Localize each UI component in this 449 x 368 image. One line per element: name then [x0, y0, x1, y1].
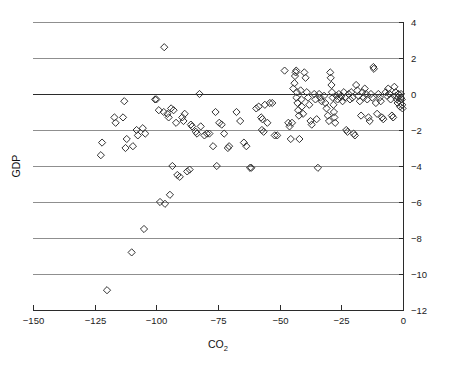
- data-point: [161, 44, 168, 51]
- data-point: [166, 191, 173, 198]
- data-point: [330, 101, 337, 108]
- x-tick-label: −25: [333, 315, 349, 326]
- x-tick-label: −150: [23, 315, 44, 326]
- data-point: [165, 114, 172, 121]
- data-point: [121, 98, 128, 105]
- x-tick-label: −125: [85, 315, 106, 326]
- data-point: [306, 101, 313, 108]
- plot-svg: −150−125−100−75−50−250420−2−4−6−8−10−12 …: [0, 0, 449, 368]
- data-point: [123, 135, 130, 142]
- y-tick-label: −4: [411, 161, 422, 172]
- data-point: [357, 112, 364, 119]
- x-axis-title: CO2: [208, 338, 228, 353]
- y-axis-title: GDP: [10, 155, 22, 178]
- x-tick-label: 0: [401, 315, 406, 326]
- data-point: [209, 143, 216, 150]
- data-point: [314, 164, 321, 171]
- y-tick-label: −8: [411, 233, 422, 244]
- scatter-chart: −150−125−100−75−50−250420−2−4−6−8−10−12 …: [0, 0, 449, 368]
- data-point: [269, 99, 276, 106]
- y-tick-label: 4: [411, 17, 416, 28]
- data-point: [197, 123, 204, 130]
- data-point: [274, 132, 281, 139]
- data-point: [103, 287, 110, 294]
- y-tick-label: −6: [411, 197, 422, 208]
- data-point: [328, 81, 335, 88]
- y-tick-label: −10: [411, 269, 427, 280]
- data-point: [233, 108, 240, 115]
- data-point: [129, 143, 136, 150]
- data-point: [119, 114, 126, 121]
- data-point: [308, 121, 315, 128]
- gridlines-group: [33, 23, 403, 275]
- data-point: [180, 117, 187, 124]
- data-point: [140, 225, 147, 232]
- data-point: [128, 249, 135, 256]
- y-tick-label: −2: [411, 125, 422, 136]
- data-point: [281, 67, 288, 74]
- data-point: [237, 117, 244, 124]
- data-point: [122, 144, 129, 151]
- x-tick-label: −100: [146, 315, 167, 326]
- x-tick-label: −50: [272, 315, 288, 326]
- y-tick-label: −12: [411, 305, 427, 316]
- data-point: [365, 114, 372, 121]
- y-tick-label: 0: [411, 89, 416, 100]
- x-tick-label: −75: [210, 315, 226, 326]
- y-tick-label: 2: [411, 53, 416, 64]
- data-points-group: [97, 44, 406, 294]
- data-point: [172, 119, 179, 126]
- data-point: [221, 130, 228, 137]
- data-point: [287, 135, 294, 142]
- data-point: [296, 135, 303, 142]
- data-point: [212, 108, 219, 115]
- data-point: [313, 116, 320, 123]
- tick-labels-group: −150−125−100−75−50−250420−2−4−6−8−10−12: [23, 17, 427, 326]
- data-point: [97, 152, 104, 159]
- data-point: [98, 139, 105, 146]
- data-point: [366, 117, 373, 124]
- data-point: [271, 132, 278, 139]
- data-point: [307, 117, 314, 124]
